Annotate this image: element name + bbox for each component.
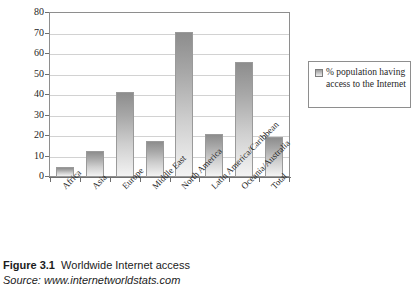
y-tick-label: 70 [18,28,44,38]
figure-caption: Figure 3.1 Worldwide Internet access [0,258,418,272]
figure-source: Source: www.internetworldstats.com [0,273,418,287]
x-tick-mark [140,178,141,182]
x-tick-mark [199,178,200,182]
y-tick-label: 40 [18,89,44,99]
y-tick-label: 30 [18,110,44,120]
x-tick-mark [110,178,111,182]
x-tick-mark [80,178,81,182]
source-url: www.internetworldstats.com [44,274,180,286]
y-tick-label: 0 [18,171,44,181]
y-tick-label: 10 [18,151,44,161]
legend-label: % population having access to the Intern… [326,67,406,90]
x-tick-mark [259,178,260,182]
figure-worldwide-internet-access: 80706050403020100 AfricaAsiaEuropeMiddle… [0,0,418,252]
x-tick-mark [170,178,171,182]
source-prefix: Source: [3,274,41,286]
y-tick-label: 60 [18,48,44,58]
legend-swatch-icon [315,69,323,77]
y-tick-label: 80 [18,7,44,17]
x-tick-mark [229,178,230,182]
legend-entry: % population having access to the Intern… [315,67,406,90]
y-tick-label: 50 [18,69,44,79]
figure-caption-block: Figure 3.1 Worldwide Internet access Sou… [0,258,418,287]
chart-legend: % population having access to the Intern… [308,61,411,108]
x-tick-mark [289,178,290,182]
y-tick-label: 20 [18,130,44,140]
bar [116,92,134,177]
figure-title: Worldwide Internet access [61,259,190,271]
x-tick-mark [50,178,51,182]
figure-number: Figure 3.1 [3,259,55,271]
